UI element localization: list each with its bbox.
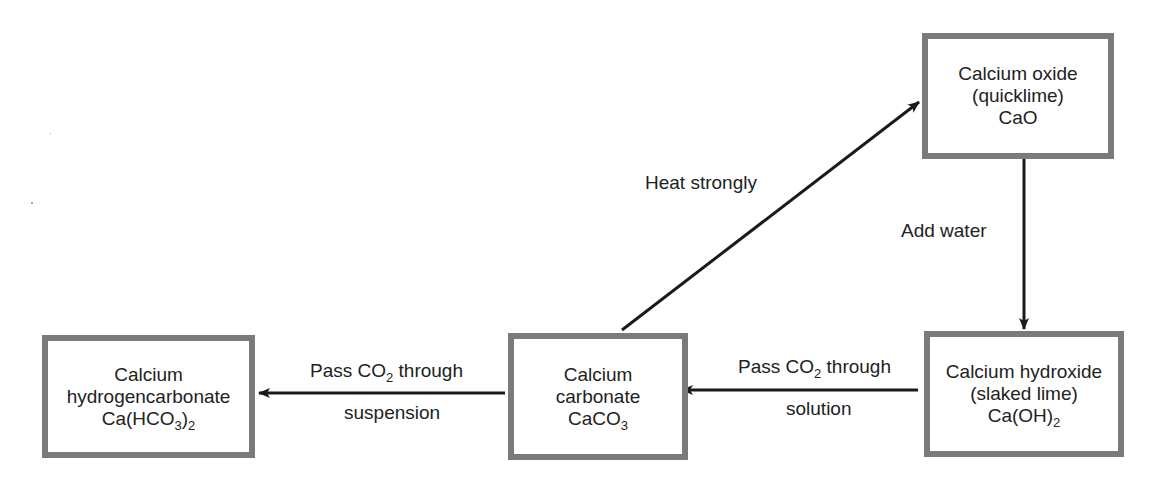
node-name: Calcium oxide: [958, 63, 1077, 85]
label-text: Pass CO: [738, 356, 814, 377]
edge-label-suspension-bottom: suspension: [344, 402, 440, 424]
arrow-heat-strongly: [622, 102, 919, 330]
node-calcium-oxide: Calcium oxide (quicklime) CaO: [922, 33, 1114, 159]
formula-subscript: 3: [175, 418, 182, 433]
formula-main: Ca(HCO: [102, 408, 175, 429]
scan-speck: [31, 202, 33, 204]
label-text-tail: through: [393, 360, 463, 381]
node-name-line1: Calcium: [564, 364, 633, 386]
edge-label-add-water: Add water: [901, 220, 987, 242]
node-formula: Ca(HCO3)2: [102, 408, 196, 430]
node-calcium-carbonate: Calcium carbonate CaCO3: [508, 333, 688, 460]
node-formula: CaCO3: [568, 408, 628, 430]
label-text-tail: through: [821, 356, 891, 377]
label-text: Pass CO: [310, 360, 386, 381]
scan-speck: [50, 133, 51, 134]
node-common-name: (slaked lime): [970, 383, 1078, 405]
formula-main: CaCO: [568, 408, 621, 429]
node-calcium-hydrogencarbonate: Calcium hydrogencarbonate Ca(HCO3)2: [42, 335, 255, 458]
node-name-line2: hydrogencarbonate: [67, 386, 231, 408]
node-formula: Ca(OH)2: [988, 405, 1061, 427]
node-calcium-hydroxide: Calcium hydroxide (slaked lime) Ca(OH)2: [924, 331, 1124, 457]
edge-label-suspension-top: Pass CO2 through: [310, 360, 463, 382]
node-name-line1: Calcium: [114, 364, 183, 386]
node-name: Calcium hydroxide: [946, 361, 1102, 383]
node-name-line2: carbonate: [556, 386, 641, 408]
edge-label-solution-top: Pass CO2 through: [738, 356, 891, 378]
formula-subscript: 3: [621, 418, 628, 433]
formula-subscript-2: 2: [188, 418, 195, 433]
node-common-name: (quicklime): [972, 85, 1064, 107]
node-formula: CaO: [998, 107, 1037, 129]
formula-subscript: 2: [1053, 415, 1060, 430]
formula-main: Ca(OH): [988, 405, 1053, 426]
edge-label-solution-bottom: solution: [786, 398, 852, 420]
edge-label-heat-strongly: Heat strongly: [645, 172, 757, 194]
